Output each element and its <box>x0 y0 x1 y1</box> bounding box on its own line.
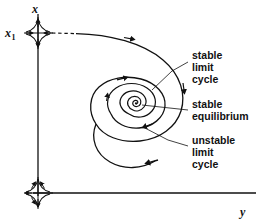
annotation-line: unstable <box>192 134 235 146</box>
annotation-stable-equilibrium: stable equilibrium <box>192 98 249 122</box>
annotation-line: cycle <box>192 158 218 170</box>
stable-equilibrium-point <box>135 102 137 104</box>
outer-incoming-trajectory <box>76 34 183 142</box>
annotation-stable-limit-cycle: stable limit cycle <box>192 49 223 85</box>
outer-trajectory-arrow-1 <box>124 38 134 40</box>
unstable-limit-cycle <box>94 124 155 168</box>
central-spiral <box>128 96 141 110</box>
axis-label-y: y <box>238 205 246 219</box>
phase-portrait-figure: x x1 y stable limit cycle stable equilib… <box>0 0 266 223</box>
middle-orbit <box>108 84 156 118</box>
outer-trajectory-arrow-2 <box>183 83 184 93</box>
phase-portrait-svg: x x1 y stable limit cycle stable equilib… <box>0 0 266 223</box>
annotation-line: limit <box>192 61 214 73</box>
annotation-line: cycle <box>192 73 218 85</box>
annotation-unstable-limit-cycle: unstable limit cycle <box>192 134 235 170</box>
leader-unstable-limit-cycle <box>143 127 188 146</box>
saddle-point-origin <box>24 177 53 209</box>
annotation-line: stable <box>192 49 223 61</box>
annotation-line: limit <box>192 146 214 158</box>
annotation-line: equilibrium <box>192 110 249 122</box>
annotation-line: stable <box>192 98 223 110</box>
separatrix-dashed <box>52 33 76 34</box>
saddle-point-x1 <box>24 17 53 49</box>
axis-label-x: x <box>31 2 38 16</box>
middle-orbit-arrow <box>0 0 108 101</box>
axis-tick-label-x1: x1 <box>4 26 15 42</box>
